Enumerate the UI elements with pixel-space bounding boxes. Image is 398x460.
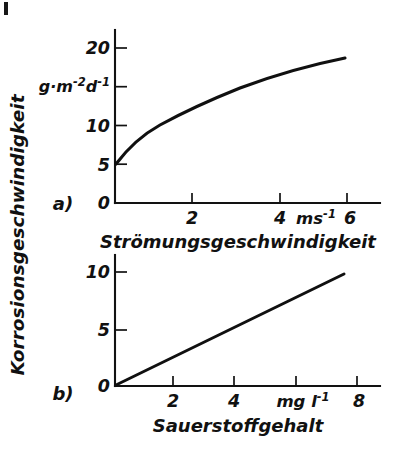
panel-a-y-unit-d: d [86,77,98,96]
panel-b-xtick-label-2: 2 [167,391,179,411]
panel-a: 20 10 5 0 g·m-2d-1 2 4 6 ms-1 a) Strömun… [39,30,380,252]
panel-b-x-axis-title: Sauerstoffgehalt [153,415,325,436]
panel-a-xtick-label-2: 2 [186,208,198,228]
panel-a-x-unit-main: ms [296,209,323,228]
panel-a-x-unit: ms-1 [296,207,336,228]
panel-b-x-unit-main: mg l [276,392,317,411]
panel-a-data-curve [116,58,345,164]
panel-a-xtick-label-4: 4 [273,208,286,228]
panel-b-label: b) [52,383,73,404]
panel-b-ytick-label-5: 5 [98,320,110,340]
panel-a-y-unit-g-sup: -2 [73,75,86,89]
panel-b-ytick-label-10: 10 [86,262,110,282]
panel-a-ytick-label-5: 5 [98,155,110,175]
panel-a-xtick-label-6: 6 [344,208,356,228]
panel-a-ytick-label-10: 10 [86,116,110,136]
panel-a-ytick-label-20: 20 [86,38,110,58]
panel-b: 10 5 0 2 4 8 mg l-1 b) Sauerstoffgehalt [52,255,380,436]
panel-b-ytick-label-0: 0 [98,376,110,396]
panel-a-y-unit: g·m-2d-1 [39,75,110,96]
panel-b-xtick-label-8: 8 [353,391,365,411]
corner-tick-icon [4,2,8,15]
panel-a-label: a) [53,193,73,214]
panel-b-x-unit: mg l-1 [276,390,329,411]
y-axis-title: Korrosionsgeschwindigkeit [7,93,28,375]
corrosion-rate-figure: Korrosionsgeschwindigkeit 20 10 5 0 g·m-… [0,0,398,460]
panel-a-x-unit-sup: -1 [323,207,336,221]
panel-a-ytick-label-0: 0 [98,193,110,213]
panel-a-y-unit-g: g·m [39,77,73,96]
panel-b-data-line [116,274,344,385]
panel-a-x-axis-title: Strömungsgeschwindigkeit [100,231,377,252]
panel-b-x-unit-sup: -1 [317,390,330,404]
panel-b-xtick-label-4: 4 [227,391,240,411]
panel-a-y-unit-d-sup: -1 [97,75,110,89]
figure-page: Korrosionsgeschwindigkeit 20 10 5 0 g·m-… [0,0,398,460]
